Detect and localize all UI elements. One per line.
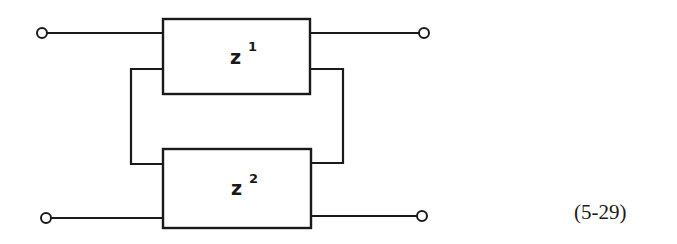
block-z2: z 2	[163, 149, 311, 228]
equation-number: (5-29)	[574, 200, 626, 225]
terminal-input-bottom-icon	[41, 213, 51, 223]
terminal-output-bottom-icon	[417, 211, 427, 221]
block-z2-label: z	[231, 177, 242, 199]
terminal-output-top-icon	[419, 28, 429, 38]
block-z1: z 1	[163, 19, 310, 94]
block-z1-label: z	[230, 46, 241, 68]
terminal-input-top-icon	[37, 28, 47, 38]
block-z2-superscript: 2	[249, 171, 258, 186]
wire-right-interconnect	[310, 69, 343, 163]
block-z1-superscript: 1	[248, 39, 257, 54]
wire-left-interconnect	[131, 69, 163, 164]
